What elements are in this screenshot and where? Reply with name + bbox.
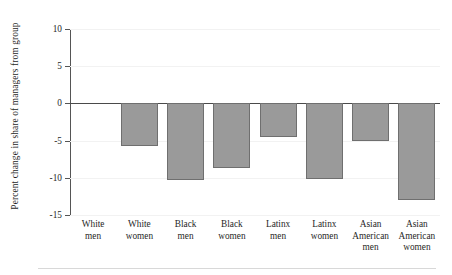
bar-slot [394, 29, 440, 215]
x-tick-label: Blackwomen [209, 219, 255, 242]
x-tick-label-line: American [348, 231, 394, 243]
y-tick-label: 10 [53, 24, 62, 34]
x-tick-label: Whitewomen [116, 219, 162, 242]
bar [213, 103, 250, 168]
x-tick-label: Whitemen [70, 219, 116, 242]
y-tick-label: -10 [50, 173, 62, 183]
y-tick-label: 0 [57, 98, 62, 108]
y-tick-mark [65, 215, 70, 216]
x-tick-label-line: Black [163, 219, 209, 231]
x-tick-label: Blackmen [163, 219, 209, 242]
plot-area: 1050-5-10-15 [70, 29, 440, 215]
x-tick-label-line: Latinx [301, 219, 347, 231]
bar-slot [116, 29, 162, 215]
bar [306, 103, 343, 179]
y-tick-label: -5 [54, 136, 62, 146]
y-gridline [70, 215, 440, 216]
y-axis-title: Percent change in share of managers from… [10, 22, 20, 209]
x-tick-label: AsianAmericanmen [348, 219, 394, 254]
x-tick-label-line: women [209, 231, 255, 243]
x-tick-label-line: women [301, 231, 347, 243]
x-tick-label: Latinxwomen [301, 219, 347, 242]
x-tick-label-line: American [394, 231, 440, 243]
x-tick-label-line: Asian [348, 219, 394, 231]
footer-divider [38, 268, 436, 269]
bar-slot [163, 29, 209, 215]
x-tick-label-line: White [116, 219, 162, 231]
bar-slot [301, 29, 347, 215]
bar-chart-figure: Percent change in share of managers from… [0, 0, 452, 275]
x-tick-label-line: women [394, 242, 440, 254]
x-axis-tick-labels: WhitemenWhitewomenBlackmenBlackwomenLati… [70, 219, 440, 261]
bar-slot [70, 29, 116, 215]
x-tick-label-line: women [116, 231, 162, 243]
x-tick-label: Latinxmen [255, 219, 301, 242]
bar [167, 103, 204, 180]
bar-slot [348, 29, 394, 215]
x-tick-label-line: men [163, 231, 209, 243]
bar [121, 103, 158, 145]
x-tick-label-line: men [70, 231, 116, 243]
bar [352, 103, 389, 141]
x-tick-label-line: White [70, 219, 116, 231]
bar-slot [255, 29, 301, 215]
x-tick-label-line: men [348, 242, 394, 254]
x-tick-label-line: men [255, 231, 301, 243]
y-tick-label: 5 [57, 61, 62, 71]
x-tick-label-line: Black [209, 219, 255, 231]
y-tick-label: -15 [50, 210, 62, 220]
x-tick-label-line: Latinx [255, 219, 301, 231]
y-axis-title-container: Percent change in share of managers from… [0, 0, 30, 232]
bar-slot [209, 29, 255, 215]
x-tick-label: AsianAmericanwomen [394, 219, 440, 254]
bar [398, 103, 435, 200]
x-tick-label-line: Asian [394, 219, 440, 231]
bar-series [70, 29, 440, 215]
bar [260, 103, 297, 136]
